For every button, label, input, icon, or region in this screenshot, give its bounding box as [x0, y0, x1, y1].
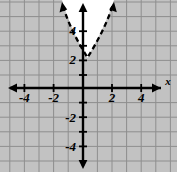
y-tick-label-neg2: -2 [65, 110, 76, 125]
graph-canvas: -4 -2 2 4 4 2 -2 -4 x [0, 0, 177, 172]
x-tick-label-pos2: 2 [108, 90, 116, 105]
x-tick-label-neg4: -4 [19, 90, 30, 105]
x-tick-label-neg2: -2 [48, 90, 59, 105]
coordinate-plane-graph: -4 -2 2 4 4 2 -2 -4 x [0, 0, 177, 172]
y-tick-label-neg4: -4 [65, 139, 76, 154]
x-axis-label: x [164, 75, 171, 87]
y-tick-label-pos4: 4 [69, 23, 77, 38]
y-tick-label-pos2: 2 [69, 52, 77, 67]
x-tick-label-pos4: 4 [137, 90, 145, 105]
